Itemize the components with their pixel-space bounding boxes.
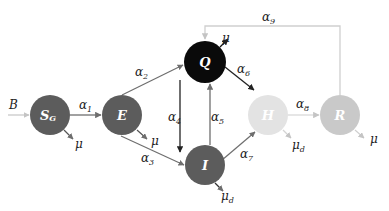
edge-q-to-i: α4 [168, 80, 181, 152]
label-mu-r: μ [370, 132, 378, 146]
edge-i-to-q: α5 [210, 84, 224, 145]
svg-text:Q: Q [199, 55, 211, 70]
outflow-h: μd [283, 130, 305, 154]
label-alpha2: α2 [135, 65, 148, 81]
label-mu-q: μ [222, 31, 230, 45]
label-alpha8: α8 [296, 97, 309, 113]
edge-q-to-h: α6 [225, 62, 254, 90]
outflow-sg: μ [64, 130, 83, 151]
node-r: R [320, 95, 360, 135]
edge-r-to-q: α9 [205, 10, 340, 95]
svg-text:E: E [116, 108, 128, 123]
outflow-i: μd [215, 183, 234, 205]
outflow-r: μ [355, 130, 378, 146]
label-alpha9: α9 [262, 10, 275, 26]
edge-e-to-q: α2 [122, 65, 183, 95]
label-alpha1: α1 [79, 98, 92, 114]
svg-text:I: I [201, 158, 209, 173]
node-h: H [248, 95, 288, 135]
edge-h-to-r: α8 [288, 97, 319, 115]
label-mu-sg: μ [75, 137, 83, 151]
svg-text:H: H [261, 108, 275, 123]
label-alpha5: α5 [211, 110, 224, 126]
label-mu-h: μd [292, 138, 305, 154]
edge-inflow-b: B [8, 98, 29, 115]
label-b: B [8, 98, 18, 112]
node-q: Q [184, 41, 226, 83]
label-alpha4: α4 [168, 110, 181, 126]
label-mu-e: μ [151, 134, 159, 148]
label-alpha3: α3 [141, 151, 154, 167]
edge-sg-to-e: α1 [70, 98, 101, 115]
label-alpha7: α7 [240, 147, 254, 163]
outflow-q: μ [220, 31, 230, 47]
node-e: E [102, 95, 142, 135]
svg-text:R: R [334, 108, 346, 123]
diagram-svg: α9 B α1 α2 α3 α4 α5 α6 α7 α8 [0, 0, 389, 211]
node-sg: SG [30, 95, 70, 135]
label-alpha6: α6 [237, 62, 250, 78]
label-mu-i: μd [221, 189, 234, 205]
node-i: I [185, 145, 225, 185]
compartmental-diagram: α9 B α1 α2 α3 α4 α5 α6 α7 α8 [0, 0, 389, 211]
